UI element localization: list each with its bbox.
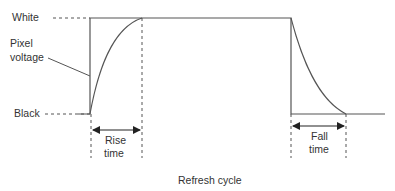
drive-signal-waveform <box>78 18 385 114</box>
pixel-voltage-label-line1: Pixel <box>10 37 33 49</box>
pixel-voltage-label-line2: voltage <box>10 51 44 63</box>
black-label: Black <box>14 107 40 119</box>
rise-response-curve <box>90 18 142 114</box>
fall-response-curve <box>291 18 346 114</box>
white-label: White <box>12 11 39 23</box>
pixel-voltage-leader-line <box>48 58 90 76</box>
rise-time-label-line1: Rise <box>105 134 126 146</box>
pixel-response-diagram: White Pixel voltage Black Rise time Fall… <box>0 0 395 191</box>
refresh-cycle-label: Refresh cycle <box>178 174 242 186</box>
rise-time-label-line2: time <box>104 147 124 159</box>
fall-time-label-line1: Fall <box>311 130 328 142</box>
fall-time-label-line2: time <box>309 143 329 155</box>
